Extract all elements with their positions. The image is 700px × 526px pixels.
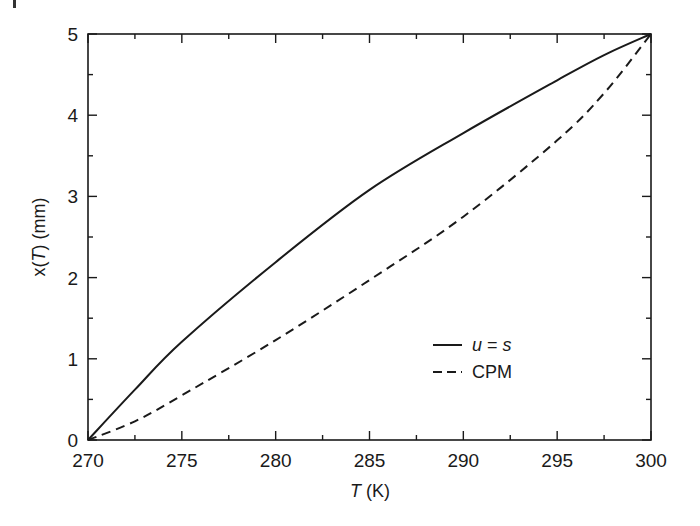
y-tick-label: 1 [67,349,78,370]
data-series [88,34,651,440]
x-axis-label: T (K) [350,481,390,501]
series-u-eq-s-line [88,34,651,440]
axis-ticks [88,34,651,440]
x-tick-label: 270 [72,450,104,471]
legend: u = s CPM [433,335,512,382]
x-tick-label: 295 [541,450,573,471]
y-tick-label: 0 [67,430,78,451]
x-tick-label: 275 [166,450,198,471]
legend-label-u-eq-s: u = s [472,335,512,355]
y-tick-label: 4 [67,105,78,126]
line-chart: 270275280285290295300012345 T (K) x(T) (… [0,0,700,526]
legend-label-cpm: CPM [472,362,512,382]
y-axis-label: x(T) (mm) [29,198,49,277]
x-tick-label: 285 [354,450,386,471]
x-tick-label: 280 [260,450,292,471]
x-tick-label: 290 [447,450,479,471]
plot-frame [88,34,651,440]
legend-item-u-eq-s: u = s [433,335,512,355]
series-cpm-line [88,34,651,440]
y-tick-label: 2 [67,268,78,289]
y-tick-label: 3 [67,186,78,207]
legend-item-cpm: CPM [433,362,512,382]
tick-labels: 270275280285290295300012345 [67,24,666,471]
y-tick-label: 5 [67,24,78,45]
x-tick-label: 300 [635,450,667,471]
